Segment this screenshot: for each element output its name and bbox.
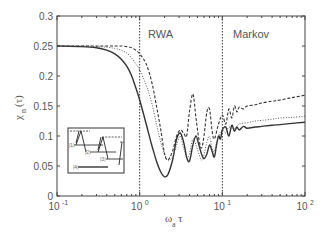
level-label: |4⟩ <box>73 164 79 170</box>
level-label: |2⟩ <box>85 149 91 155</box>
x-tick-exponent: -1 <box>62 199 68 206</box>
x-tick-exponent: 0 <box>145 199 149 206</box>
level-label: |3⟩ <box>100 156 106 162</box>
rwa-label: RWA <box>148 28 174 40</box>
x-tick-label: 10 <box>214 201 226 212</box>
y-tick-label: 0 <box>47 191 53 202</box>
svg-text:χ: χ <box>12 115 24 121</box>
x-axis-label: ω a τ <box>165 212 183 229</box>
x-tick-label: 10 <box>48 201 60 212</box>
x-tick-label: 10 <box>131 201 143 212</box>
svg-text:(τ): (τ) <box>12 95 25 107</box>
inset-energy-diagram: |1⟩|2⟩|3⟩|4⟩ <box>68 128 124 173</box>
y-tick-label: 0.15 <box>34 101 54 112</box>
y-tick-label: 0.3 <box>39 11 53 22</box>
svg-text:n: n <box>19 109 28 113</box>
y-tick-label: 0.05 <box>34 161 54 172</box>
x-tick-exponent: 1 <box>227 199 231 206</box>
chart-axes: 00.050.10.150.20.250.310-1100101102 <box>34 11 314 213</box>
y-tick-label: 0.1 <box>39 131 53 142</box>
markov-label: Markov <box>233 28 270 40</box>
svg-text:τ: τ <box>178 212 183 224</box>
x-tick-exponent: 2 <box>310 199 314 206</box>
y-axis-label: χ n (τ) <box>12 95 28 121</box>
level-label: |1⟩ <box>69 142 75 148</box>
chart: 00.050.10.150.20.250.310-1100101102 |1⟩|… <box>0 0 327 235</box>
x-tick-label: 10 <box>296 201 308 212</box>
y-tick-label: 0.2 <box>39 71 53 82</box>
svg-text:a: a <box>172 220 176 229</box>
y-tick-label: 0.25 <box>34 41 54 52</box>
